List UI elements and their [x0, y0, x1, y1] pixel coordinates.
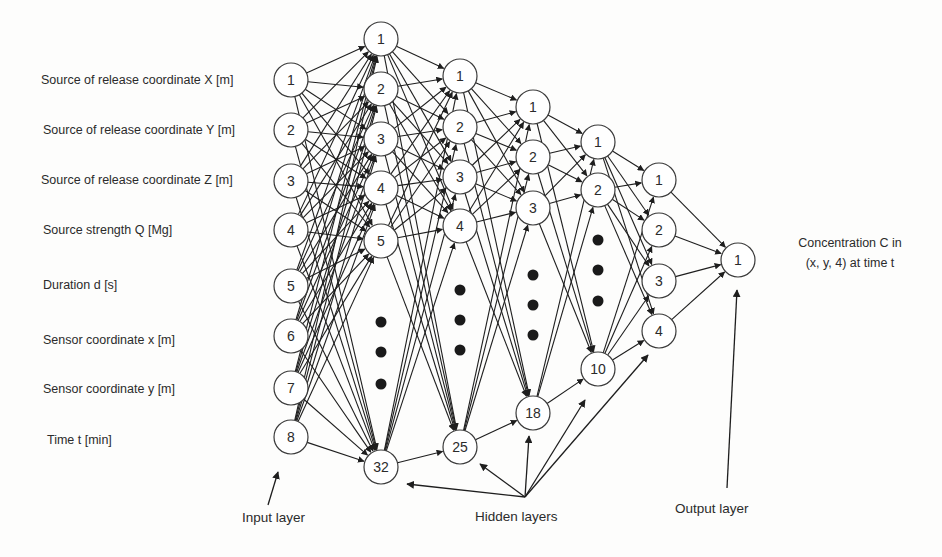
- edge: [472, 119, 520, 165]
- edge: [549, 195, 580, 204]
- node: 1: [443, 59, 477, 93]
- node: 4: [364, 171, 398, 205]
- edge: [612, 151, 643, 170]
- edge: [548, 115, 582, 133]
- input-label-source-z: Source of release coordinate Z [m]: [41, 173, 233, 187]
- hidden-layer-pointer: [480, 464, 525, 497]
- input-layer-pointer: [268, 472, 278, 505]
- svg-text:1: 1: [594, 134, 602, 150]
- ellipsis-dot: [455, 285, 466, 296]
- node: 4: [274, 213, 308, 247]
- edge: [545, 155, 585, 196]
- svg-text:2: 2: [594, 182, 602, 198]
- node: 7: [274, 371, 308, 405]
- ellipsis-dot: [376, 379, 387, 390]
- node: 3: [443, 160, 477, 194]
- ellipsis-dot: [376, 317, 387, 328]
- node: 1: [274, 63, 308, 97]
- output-layer-caption: Output layer: [675, 501, 749, 516]
- svg-text:32: 32: [373, 459, 389, 475]
- edge: [675, 265, 720, 277]
- svg-text:3: 3: [377, 131, 385, 147]
- edge: [612, 199, 644, 220]
- input-label-sensor-y: Sensor coordinate y [m]: [43, 382, 175, 396]
- edge: [303, 52, 368, 118]
- node: 1: [642, 163, 676, 197]
- node: 5: [274, 269, 308, 303]
- node: 3: [516, 191, 550, 225]
- svg-text:2: 2: [287, 122, 295, 138]
- svg-text:10: 10: [590, 361, 606, 377]
- svg-text:1: 1: [655, 172, 663, 188]
- ellipsis-dot: [528, 270, 539, 281]
- edge: [394, 188, 446, 230]
- node: 3: [364, 122, 398, 156]
- layer-hidden-3: 12318: [516, 90, 550, 430]
- node: 2: [364, 72, 398, 106]
- layer-hidden-5: 1234: [642, 163, 676, 348]
- edge: [396, 46, 443, 68]
- node: 6: [274, 319, 308, 353]
- node: 3: [642, 264, 676, 298]
- edge: [471, 89, 521, 144]
- node: 25: [443, 430, 477, 464]
- svg-text:25: 25: [452, 439, 468, 455]
- edge: [548, 165, 582, 182]
- svg-text:5: 5: [287, 278, 295, 294]
- svg-text:4: 4: [377, 180, 385, 196]
- node: 5: [364, 224, 398, 258]
- svg-text:1: 1: [377, 31, 385, 47]
- edge: [476, 83, 517, 100]
- svg-text:18: 18: [525, 405, 541, 421]
- hidden-layers-caption: Hidden layers: [475, 509, 558, 524]
- svg-text:4: 4: [655, 323, 663, 339]
- input-label-duration: Duration d [s]: [43, 278, 117, 292]
- edge: [672, 272, 725, 320]
- node: 1: [721, 243, 755, 277]
- node: 2: [274, 113, 308, 147]
- ellipsis-dot: [455, 315, 466, 326]
- connection-edges: [295, 46, 726, 463]
- svg-text:2: 2: [529, 149, 537, 165]
- layer-hidden-4: 1210: [581, 125, 615, 386]
- edge: [396, 195, 443, 218]
- input-label-source-y: Source of release coordinate Y [m]: [43, 123, 235, 137]
- svg-text:1: 1: [287, 72, 295, 88]
- input-layer-caption: Input layer: [242, 510, 305, 525]
- node: 1: [516, 90, 550, 124]
- node: 2: [516, 140, 550, 174]
- edge: [469, 122, 524, 211]
- svg-text:8: 8: [287, 429, 295, 445]
- edge: [391, 142, 450, 227]
- svg-text:7: 7: [287, 380, 295, 396]
- node: 10: [581, 352, 615, 386]
- output-description-line1: Concentration C in: [780, 233, 920, 253]
- ellipsis-dot: [455, 345, 466, 356]
- svg-text:3: 3: [655, 273, 663, 289]
- ellipsis-dot: [376, 347, 387, 358]
- edge: [675, 236, 721, 254]
- output-layer-pointer: [727, 290, 737, 488]
- node: 2: [581, 173, 615, 207]
- svg-text:4: 4: [456, 218, 464, 234]
- svg-text:1: 1: [456, 68, 464, 84]
- node: 18: [516, 396, 550, 430]
- svg-text:5: 5: [377, 233, 385, 249]
- svg-text:6: 6: [287, 328, 295, 344]
- layer-input: 12345678: [274, 63, 308, 454]
- edge: [671, 192, 725, 247]
- node: 4: [443, 209, 477, 243]
- input-label-time: Time t [min]: [47, 433, 112, 447]
- node: 2: [642, 213, 676, 247]
- edge: [547, 379, 583, 403]
- edge: [465, 225, 528, 431]
- input-label-sensor-x: Sensor coordinate x [m]: [43, 333, 175, 347]
- hidden-layer-pointer: [407, 484, 525, 497]
- hidden-layer-pointer: [525, 436, 529, 497]
- svg-text:3: 3: [529, 200, 537, 216]
- ellipsis-dot: [528, 300, 539, 311]
- edge: [295, 106, 376, 420]
- svg-text:2: 2: [456, 119, 464, 135]
- svg-text:4: 4: [287, 222, 295, 238]
- svg-text:2: 2: [377, 81, 385, 97]
